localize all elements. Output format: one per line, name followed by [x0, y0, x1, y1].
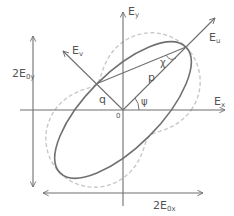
q-label: q	[99, 94, 106, 105]
ex-label: Ex	[214, 96, 225, 109]
height-label: 2E0y	[12, 68, 35, 81]
ev-label: Ev	[72, 45, 83, 58]
width-label: 2E0x	[153, 200, 176, 213]
chi-angle-arc	[166, 55, 176, 59]
chord-line	[96, 47, 186, 84]
v-axis	[63, 51, 123, 110]
u-axis	[123, 18, 215, 110]
chi-label: χ	[160, 58, 166, 68]
origin-label: 0	[116, 113, 120, 120]
psi-label: ψ	[141, 97, 148, 107]
ey-label: Ey	[128, 6, 139, 19]
psi-angle-arc	[135, 98, 139, 110]
polarization-ellipse-diagram	[0, 0, 234, 216]
eu-label: Eu	[209, 32, 220, 45]
p-label: p	[148, 72, 155, 83]
